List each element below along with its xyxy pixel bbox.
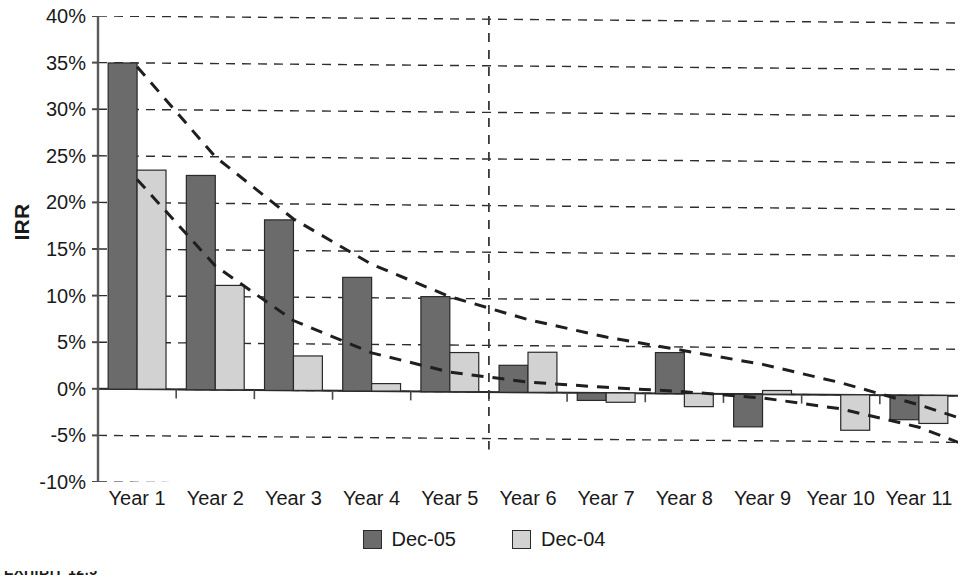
bar-dec-04-year-2 — [215, 285, 244, 389]
y-tick-label-neg10: -10% — [12, 472, 86, 492]
irr-bar-chart: IRR 40%35%30%25%20%15%10%5%0%-5%-10% Yea… — [0, 0, 968, 581]
x-tick-label-year-1: Year 1 — [98, 486, 176, 510]
bar-dec-05-year-7 — [577, 393, 606, 400]
legend-swatch-dec-04 — [512, 530, 531, 549]
x-tick-label-year-3: Year 3 — [254, 486, 332, 510]
x-tick-label-year-6: Year 6 — [489, 486, 567, 510]
gridline-20 — [98, 202, 958, 209]
x-tick-label-year-9: Year 9 — [723, 486, 801, 510]
y-tick-label-10: 10% — [12, 286, 86, 306]
x-tick-label-year-11: Year 11 — [880, 486, 958, 510]
gridline-15 — [98, 249, 958, 256]
y-tick-label-15: 15% — [12, 239, 86, 259]
y-tick-label-40: 40% — [12, 6, 86, 26]
x-tick-label-year-7: Year 7 — [567, 486, 645, 510]
y-tick-label-20: 20% — [12, 192, 86, 212]
exhibit-caption: EXHIBIT 12.5 — [4, 571, 98, 578]
y-tick-label-35: 35% — [12, 53, 86, 73]
x-tick-label-year-2: Year 2 — [176, 486, 254, 510]
x-tick-label-year-5: Year 5 — [411, 486, 489, 510]
bar-dec-04-year-8 — [684, 394, 713, 407]
gridline-35 — [98, 63, 958, 70]
legend-entry-dec-05[interactable]: Dec-05 — [363, 529, 456, 549]
bar-dec-05-year-3 — [265, 220, 294, 391]
y-tick-label-30: 30% — [12, 99, 86, 119]
bar-dec-05-year-2 — [186, 175, 215, 389]
gridline-40 — [98, 16, 958, 23]
x-tick-label-year-10: Year 10 — [802, 486, 880, 510]
gridline-30 — [98, 109, 958, 116]
x-tick-label-year-4: Year 4 — [333, 486, 411, 510]
y-tick-label-25: 25% — [12, 146, 86, 166]
x-tick-label-year-8: Year 8 — [645, 486, 723, 510]
bar-dec-05-year-9 — [734, 394, 763, 427]
trendline-2 — [137, 179, 958, 445]
bar-dec-05-year-4 — [343, 277, 372, 391]
legend-entry-dec-04[interactable]: Dec-04 — [512, 529, 605, 549]
x-axis-tick-labels: Year 1Year 2Year 3Year 4Year 5Year 6Year… — [92, 486, 958, 520]
legend-label-dec-04: Dec-04 — [541, 529, 605, 549]
bar-dec-04-year-6 — [528, 352, 557, 392]
bar-dec-05-year-1 — [108, 63, 137, 389]
gridline-neg5 — [98, 435, 958, 442]
chart-legend: Dec-05Dec-04 — [0, 524, 968, 554]
bar-dec-04-year-7 — [606, 393, 635, 402]
bar-dec-04-year-4 — [372, 384, 401, 391]
legend-swatch-dec-05 — [363, 530, 382, 549]
y-axis-tick-labels: 40%35%30%25%20%15%10%5%0%-5%-10% — [0, 0, 86, 581]
plot-svg — [92, 16, 958, 482]
y-tick-label-0: 0% — [12, 379, 86, 399]
legend-label-dec-05: Dec-05 — [392, 529, 456, 549]
bar-dec-04-year-3 — [293, 356, 322, 390]
bar-dec-04-year-9 — [763, 390, 792, 394]
bar-dec-04-year-1 — [137, 170, 166, 389]
y-tick-label-neg5: -5% — [12, 425, 86, 445]
bottom-caption-strip: EXHIBIT 12.5 — [0, 571, 968, 581]
bar-dec-05-year-8 — [655, 353, 684, 394]
bar-dec-05-year-5 — [421, 297, 450, 392]
plot-area — [92, 16, 958, 482]
gridline-25 — [98, 156, 958, 163]
y-tick-label-5: 5% — [12, 332, 86, 352]
